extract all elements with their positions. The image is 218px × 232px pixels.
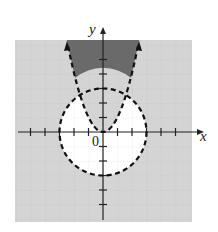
- graph: x y 0: [0, 0, 218, 232]
- x-axis-label: x: [199, 128, 207, 144]
- y-axis-arrow-icon: [100, 27, 106, 34]
- y-axis-label: y: [87, 21, 96, 37]
- origin-label: 0: [92, 134, 99, 149]
